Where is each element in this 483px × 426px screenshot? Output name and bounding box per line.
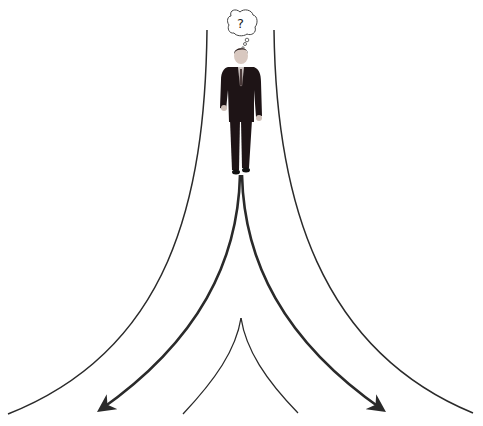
inner-left-edge <box>183 318 241 414</box>
fork-in-road-diagram: ? <box>0 0 483 426</box>
businessman-figure <box>220 48 262 175</box>
left-path-arrow <box>100 175 240 410</box>
right-road-edge <box>274 30 473 413</box>
thought-bubble: ? <box>228 10 258 49</box>
left-road-edge <box>8 30 207 414</box>
inner-right-edge <box>241 318 298 413</box>
right-path-arrow <box>242 175 383 410</box>
question-mark: ? <box>237 16 244 31</box>
